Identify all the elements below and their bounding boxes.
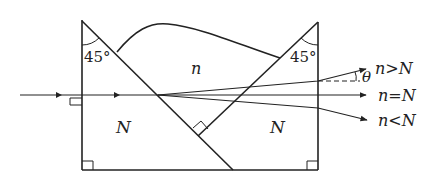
right-angle-mark-left	[70, 98, 82, 105]
ray-n-greater-N	[158, 69, 366, 95]
theta-arc	[355, 72, 356, 81]
label-n-greater-N: n>N	[375, 59, 414, 78]
left-prism-N-label: N	[115, 117, 132, 137]
right-prism-N-label: N	[269, 117, 286, 137]
right-angle-mark-bottom-right	[307, 161, 318, 170]
left-angle-arc	[82, 38, 99, 45]
right-angle-arc	[301, 38, 318, 45]
right-angle-label: 45°	[290, 48, 317, 66]
right-hypotenuse	[198, 22, 318, 136]
medium-boundary-curve	[117, 24, 280, 58]
prism-diagram: 45° 45° n N N θ n>N n=N n<N	[0, 0, 439, 193]
label-n-less-N: n<N	[378, 111, 417, 130]
medium-n-label: n	[191, 59, 201, 78]
ray-n-less-N	[158, 95, 367, 120]
theta-label: θ	[362, 68, 371, 86]
left-angle-label: 45°	[84, 48, 111, 66]
right-angle-mark-bottom-left	[82, 161, 93, 170]
label-n-equal-N: n=N	[378, 86, 417, 105]
